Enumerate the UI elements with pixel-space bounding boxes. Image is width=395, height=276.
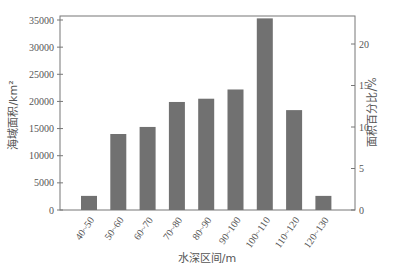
y-tick-label: 5000: [34, 177, 54, 188]
bar: [315, 196, 331, 210]
x-tick-label: 40~50: [73, 215, 97, 242]
bar: [257, 18, 273, 210]
y-tick-label: 30000: [29, 42, 54, 53]
x-tick-label: 50~60: [102, 215, 126, 242]
y-tick-label: 0: [49, 205, 54, 216]
x-tick-label: 100~110: [243, 215, 272, 250]
bar: [140, 127, 156, 210]
y-tick-label: 35000: [29, 15, 54, 26]
y-axis-title: 海域面积/km²: [6, 80, 20, 149]
y-tick-label: 25000: [29, 69, 54, 80]
bar: [81, 196, 97, 210]
y-right-tick-label: 5: [359, 163, 364, 174]
x-tick-label: 90~100: [216, 215, 242, 246]
x-tick-label: 70~80: [161, 215, 185, 242]
bar: [198, 99, 214, 210]
y-right-axis-title: 面积百分比/%: [366, 77, 379, 146]
plot-area: 40~5050~6060~7070~8080~9090~100100~11011…: [6, 15, 379, 266]
x-tick-label: 60~70: [131, 215, 155, 242]
y-tick-label: 20000: [29, 96, 54, 107]
y-tick-label: 10000: [29, 150, 54, 161]
x-tick-label: 120~130: [301, 215, 330, 250]
y-tick-label: 15000: [29, 123, 54, 134]
bar: [228, 89, 244, 210]
x-axis-title: 水深区间/m: [178, 252, 236, 265]
bar-chart: 40~5050~6060~7070~8080~9090~100100~11011…: [0, 0, 395, 276]
bar: [286, 110, 302, 210]
x-tick-label: 110~120: [272, 215, 301, 250]
y-right-tick-label: 0: [359, 205, 364, 216]
bar: [110, 134, 126, 210]
x-tick-label: 80~90: [190, 215, 214, 242]
bar: [169, 102, 185, 210]
y-right-tick-label: 20: [359, 39, 369, 50]
